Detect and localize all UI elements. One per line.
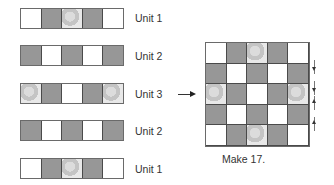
square-gray bbox=[268, 84, 289, 105]
unit-label: Unit 1 bbox=[135, 12, 162, 24]
square-print bbox=[62, 159, 83, 178]
square-white bbox=[206, 125, 227, 146]
square-white bbox=[288, 125, 309, 146]
square-white bbox=[62, 84, 83, 103]
square-gray bbox=[227, 43, 248, 64]
square-white bbox=[206, 43, 227, 64]
square-gray bbox=[227, 84, 248, 105]
square-gray bbox=[83, 84, 104, 103]
square-gray bbox=[21, 46, 42, 65]
square-gray bbox=[288, 64, 309, 85]
square-white bbox=[247, 84, 268, 105]
press-down-arrow-icon bbox=[314, 81, 315, 95]
square-white bbox=[42, 121, 63, 140]
square-white bbox=[83, 46, 104, 65]
square-white bbox=[21, 9, 42, 28]
square-gray bbox=[62, 46, 83, 65]
unit-label: Unit 3 bbox=[135, 88, 162, 100]
square-white bbox=[227, 64, 248, 85]
square-gray bbox=[247, 64, 268, 85]
square-gray bbox=[62, 121, 83, 140]
square-gray bbox=[288, 105, 309, 126]
assembled-block bbox=[205, 42, 310, 147]
square-print bbox=[288, 84, 309, 105]
unit-label: Unit 1 bbox=[135, 163, 162, 175]
unit-strip-1 bbox=[20, 8, 124, 29]
square-white bbox=[103, 159, 123, 178]
square-gray bbox=[247, 105, 268, 126]
square-gray bbox=[42, 159, 63, 178]
square-white bbox=[103, 9, 123, 28]
press-down-arrow-icon bbox=[314, 60, 315, 74]
square-gray bbox=[206, 105, 227, 126]
square-gray bbox=[103, 121, 123, 140]
press-up-arrow-icon bbox=[314, 117, 315, 131]
square-print bbox=[247, 125, 268, 146]
square-gray bbox=[268, 125, 289, 146]
unit-strip-5 bbox=[20, 158, 124, 179]
square-print bbox=[247, 43, 268, 64]
unit-strip-2 bbox=[20, 45, 124, 66]
square-print bbox=[103, 84, 123, 103]
square-gray bbox=[206, 64, 227, 85]
square-gray bbox=[268, 43, 289, 64]
square-gray bbox=[42, 9, 63, 28]
square-white bbox=[21, 159, 42, 178]
block-caption: Make 17. bbox=[222, 153, 265, 165]
square-print bbox=[62, 9, 83, 28]
square-gray bbox=[103, 46, 123, 65]
right-arrow-icon bbox=[178, 94, 194, 95]
square-gray bbox=[42, 84, 63, 103]
square-white bbox=[288, 43, 309, 64]
unit-label: Unit 2 bbox=[135, 125, 162, 137]
unit-strip-4 bbox=[20, 120, 124, 141]
square-print bbox=[206, 84, 227, 105]
square-gray bbox=[227, 125, 248, 146]
unit-strip-3 bbox=[20, 83, 124, 104]
press-up-arrow-icon bbox=[314, 96, 315, 110]
square-gray bbox=[83, 9, 104, 28]
square-white bbox=[268, 105, 289, 126]
square-white bbox=[227, 105, 248, 126]
square-white bbox=[42, 46, 63, 65]
square-gray bbox=[21, 121, 42, 140]
unit-label: Unit 2 bbox=[135, 50, 162, 62]
square-print bbox=[21, 84, 42, 103]
square-white bbox=[268, 64, 289, 85]
square-white bbox=[83, 121, 104, 140]
square-gray bbox=[83, 159, 104, 178]
